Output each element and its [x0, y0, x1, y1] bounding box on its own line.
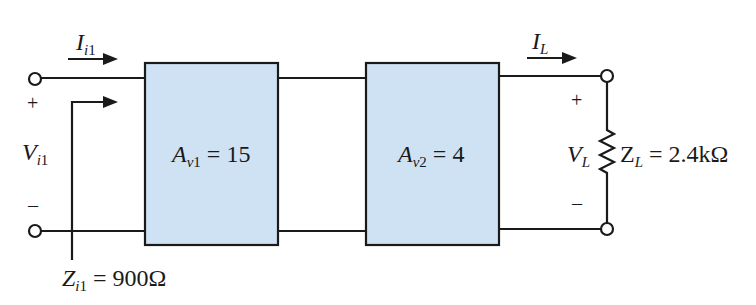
output-current-label: IL — [532, 29, 548, 57]
input-minus-sign: – — [28, 195, 38, 215]
output-current-arrowhead — [562, 52, 577, 64]
input-plus-sign: + — [27, 93, 38, 113]
output-terminal-bottom — [601, 223, 613, 235]
load-resistor — [600, 82, 614, 223]
input-voltage-label: Vi1 — [22, 140, 48, 168]
input-impedance-label: Zi1 = 900Ω — [62, 266, 166, 294]
input-impedance-arrow — [72, 102, 108, 260]
output-voltage-label: VL — [567, 142, 590, 170]
output-terminal-top — [601, 70, 613, 82]
input-current-arrowhead — [103, 53, 118, 65]
input-terminal-top — [29, 73, 41, 85]
input-impedance-arrowhead — [103, 96, 118, 108]
output-minus-sign: – — [572, 193, 582, 213]
stage-1-gain-label: Av1 = 15 — [172, 142, 250, 170]
input-current-label: Ii1 — [76, 30, 96, 58]
output-plus-sign: + — [571, 90, 582, 110]
input-terminal-bottom — [29, 225, 41, 237]
stage-2-gain-label: Av2 = 4 — [398, 142, 464, 170]
load-impedance-label: ZL = 2.4kΩ — [620, 142, 728, 170]
